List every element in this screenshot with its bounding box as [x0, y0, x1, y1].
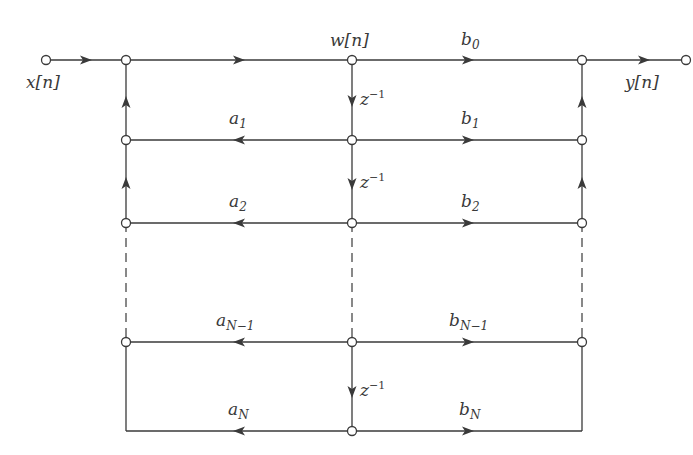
- left-node-2: [122, 219, 131, 228]
- coef-aN: aN: [228, 399, 249, 422]
- coef-base: a: [216, 310, 226, 330]
- delay-label-N: z−1: [359, 379, 385, 400]
- input-node: [42, 56, 51, 65]
- right-node-1: [578, 136, 587, 145]
- left-adder-node-0: [122, 56, 131, 65]
- delay-exp: −1: [369, 379, 385, 392]
- signal-flow-diagram: x[n] y[n] w[n] z−1 z−1 z−1 b0 b1 b2 bN−1…: [0, 0, 693, 455]
- coef-base: a: [228, 399, 238, 419]
- coef-sub: N−1: [459, 319, 488, 333]
- wn-node: [348, 56, 357, 65]
- coef-base: b: [449, 310, 460, 330]
- coef-a2: a2: [229, 191, 247, 214]
- left-node-1: [122, 136, 131, 145]
- coef-b2: b2: [461, 191, 480, 214]
- right-adder-node-0: [578, 56, 587, 65]
- coef-aN-1: aN−1: [216, 310, 254, 333]
- right-node-2: [578, 219, 587, 228]
- input-label: x[n]: [26, 72, 60, 92]
- state-label: w[n]: [330, 30, 369, 50]
- delay-node-N: [348, 427, 357, 436]
- coef-sub: 2: [471, 200, 480, 214]
- delay-node-N-1: [348, 338, 357, 347]
- delay-label-2: z−1: [359, 171, 385, 192]
- left-node-N-1: [122, 338, 131, 347]
- coef-sub: 0: [472, 38, 480, 52]
- coef-bN-1: bN−1: [449, 310, 488, 333]
- coef-sub: N: [469, 408, 481, 422]
- coef-sub: 1: [239, 117, 247, 131]
- coef-base: b: [459, 399, 470, 419]
- coef-base: b: [461, 108, 472, 128]
- coef-base: a: [229, 191, 239, 211]
- output-node: [682, 56, 691, 65]
- coef-sub: N: [237, 408, 249, 422]
- delay-exp: −1: [369, 88, 385, 101]
- delay-node-2: [348, 219, 357, 228]
- delay-exp: −1: [369, 171, 385, 184]
- coef-b0: b0: [461, 29, 480, 52]
- right-node-N-1: [578, 338, 587, 347]
- delay-node-1: [348, 136, 357, 145]
- coef-a1: a1: [229, 108, 247, 131]
- coef-base: a: [229, 108, 239, 128]
- coef-sub: N−1: [225, 319, 254, 333]
- coef-sub: 1: [472, 117, 480, 131]
- delay-label-1: z−1: [359, 88, 385, 109]
- output-label: y[n]: [624, 72, 659, 92]
- coef-bN: bN: [459, 399, 481, 422]
- coef-base: b: [461, 191, 472, 211]
- coef-sub: 2: [238, 200, 247, 214]
- coef-b1: b1: [461, 108, 480, 131]
- coef-base: b: [461, 29, 472, 49]
